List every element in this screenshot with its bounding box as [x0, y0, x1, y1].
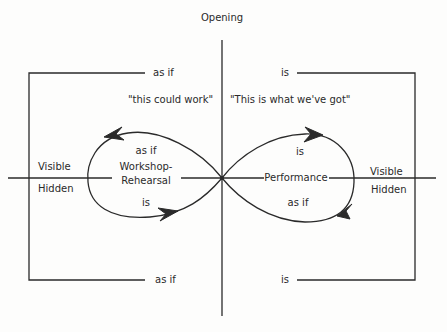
left-top-as-if-label: as if	[153, 67, 174, 79]
right-hidden-label: Hidden	[371, 184, 406, 196]
arrow-left-lower-icon	[158, 208, 178, 221]
right-loop-as-if-label: as if	[288, 197, 309, 209]
right-loop-name: Performance	[264, 172, 327, 184]
left-loop-name-line2: Rehearsal	[121, 175, 171, 187]
center-node	[220, 176, 224, 180]
right-quote: "This is what we've got"	[230, 94, 350, 106]
workshop-performance-diagram: Opening as if is "this could work" "This…	[0, 0, 447, 332]
right-top-is-label: is	[281, 67, 289, 79]
left-visible-label: Visible	[38, 161, 71, 173]
left-hidden-label: Hidden	[38, 183, 73, 195]
arrow-right-lower-icon	[337, 204, 352, 219]
right-loop-is-label: is	[296, 146, 304, 158]
right-visible-label: Visible	[370, 166, 403, 178]
left-loop-is-label: is	[142, 197, 150, 209]
left-quote: "this could work"	[128, 94, 213, 106]
right-bottom-is-label: is	[281, 274, 289, 286]
opening-label: Opening	[201, 12, 243, 24]
left-loop-as-if-label: as if	[136, 145, 157, 157]
arrow-left-upper-icon	[104, 127, 124, 140]
left-loop-name-line1: Workshop-	[120, 161, 173, 173]
left-bottom-as-if-label: as if	[155, 274, 176, 286]
